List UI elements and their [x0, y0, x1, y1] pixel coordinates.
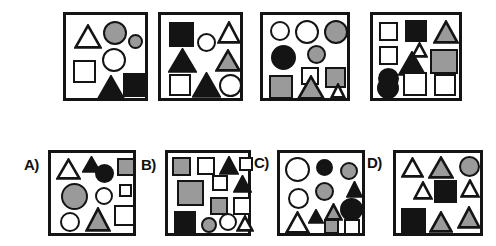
gray-circle	[128, 34, 143, 49]
black-square	[123, 73, 147, 97]
option-a-shapes	[51, 153, 133, 233]
gray-circle	[324, 20, 348, 44]
gray-triangle	[457, 206, 481, 229]
white-circle	[219, 74, 242, 97]
gray-triangle	[85, 207, 111, 232]
white-square	[197, 157, 215, 175]
white-circle	[95, 187, 113, 205]
white-circle	[288, 188, 309, 209]
puzzle-canvas: A)B)C)D)	[0, 0, 496, 246]
white-triangle	[56, 158, 81, 180]
black-square	[434, 180, 457, 203]
black-circle	[316, 159, 333, 176]
black-triangle	[192, 72, 221, 98]
white-circle	[60, 212, 80, 232]
gray-square	[430, 49, 458, 74]
option-b-panel[interactable]	[165, 150, 251, 236]
option-c-shapes	[280, 153, 362, 233]
black-circle	[95, 164, 114, 183]
white-triangle	[217, 21, 241, 44]
white-square	[119, 184, 132, 197]
white-triangle	[236, 215, 254, 232]
white-triangle	[401, 157, 424, 178]
option-d-panel[interactable]	[393, 150, 483, 236]
option-a-panel[interactable]	[48, 150, 136, 236]
gray-square	[117, 158, 135, 176]
gray-triangle	[215, 49, 241, 72]
gray-triangle	[297, 75, 325, 100]
gray-triangle	[428, 156, 454, 179]
black-square	[169, 22, 194, 47]
gray-square	[177, 180, 204, 206]
option-a-label[interactable]: A)	[24, 157, 39, 172]
problem-3-shapes	[263, 15, 347, 98]
black-triangle	[168, 48, 197, 73]
problem-3-panel	[260, 12, 350, 101]
white-circle	[270, 21, 290, 41]
white-circle	[285, 157, 310, 182]
problem-4-shapes	[373, 15, 459, 98]
black-triangle	[219, 156, 239, 175]
white-square	[114, 205, 135, 226]
black-square	[401, 208, 426, 233]
gray-circle	[61, 183, 88, 210]
white-triangle	[74, 24, 102, 49]
white-square	[379, 46, 398, 65]
white-circle	[197, 33, 216, 52]
white-square	[73, 60, 96, 83]
black-square	[405, 20, 427, 42]
black-square	[174, 211, 196, 233]
white-square	[379, 22, 398, 41]
problem-2-shapes	[161, 15, 240, 98]
white-square	[434, 74, 456, 96]
problem-4-panel	[370, 12, 462, 101]
black-triangle	[233, 175, 252, 193]
gray-circle	[103, 21, 127, 45]
gray-circle	[201, 217, 217, 233]
black-triangle	[346, 181, 363, 198]
option-d-shapes	[396, 153, 480, 233]
white-square	[403, 72, 427, 96]
black-triangle	[97, 75, 125, 100]
gray-triangle	[433, 20, 459, 44]
white-circle	[219, 213, 237, 231]
option-b-shapes	[168, 153, 248, 233]
gray-square	[324, 219, 339, 234]
black-triangle	[308, 209, 324, 224]
gray-triangle	[429, 211, 453, 233]
white-circle	[102, 48, 126, 72]
white-square	[344, 219, 360, 235]
gray-circle	[340, 162, 358, 180]
problem-1-panel	[63, 12, 148, 101]
white-triangle	[413, 181, 433, 200]
white-square	[212, 175, 228, 191]
white-square	[233, 197, 251, 215]
white-triangle	[330, 83, 346, 99]
black-circle	[377, 77, 399, 99]
white-triangle	[460, 179, 480, 198]
gray-square	[269, 75, 293, 99]
option-d-label[interactable]: D)	[367, 155, 382, 170]
white-square	[239, 157, 253, 171]
option-c-label[interactable]: C)	[254, 155, 269, 170]
gray-square	[172, 157, 191, 176]
white-triangle	[285, 211, 310, 234]
black-circle	[271, 45, 296, 70]
gray-circle	[315, 182, 334, 201]
option-c-panel[interactable]	[277, 150, 365, 236]
gray-circle	[459, 156, 480, 177]
option-b-label[interactable]: B)	[141, 157, 156, 172]
white-circle	[295, 20, 319, 44]
problem-1-shapes	[66, 15, 145, 98]
problem-2-panel	[158, 12, 243, 101]
black-circle	[340, 198, 363, 221]
gray-circle	[307, 45, 326, 64]
white-square	[169, 74, 191, 96]
